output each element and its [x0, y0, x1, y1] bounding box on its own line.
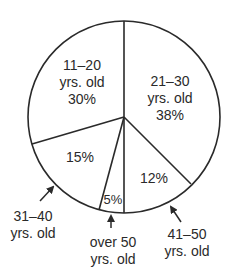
label-11-20: 11–20 yrs. old 30%	[52, 57, 112, 108]
label-12-pct: 12%	[136, 170, 172, 187]
label-31-40: 31–40 yrs. old	[6, 208, 60, 242]
label-21-30: 21–30 yrs. old 38%	[140, 73, 200, 124]
arrow-31-40	[40, 187, 53, 201]
arrow-41-50	[171, 207, 181, 222]
pie-chart: 11–20 yrs. old 30% 21–30 yrs. old 38% 15…	[0, 0, 230, 279]
label-41-50: 41–50 yrs. old	[158, 226, 216, 260]
label-15-pct: 15%	[62, 149, 98, 166]
label-over-50: over 50 yrs. old	[82, 234, 144, 268]
label-5-pct: 5%	[102, 191, 124, 208]
